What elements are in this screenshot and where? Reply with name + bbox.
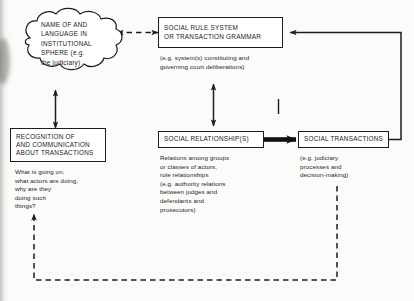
caption-social-transactions: (e.g. judiciary processes and decision-m…: [300, 154, 348, 180]
node-social-relationships[interactable]: SOCIAL RELATIONSHIP(S): [158, 131, 264, 148]
connector-social-transactions-feedback-to-rule-system: [290, 33, 401, 140]
caption-recognition: What is going on, what actors are doing,…: [15, 168, 78, 211]
diagram-figure: rule system --> recognition --> social r…: [0, 0, 414, 301]
node-social-rule-system[interactable]: SOCIAL RULE SYSTEM OR TRANSACTION GRAMMA…: [158, 17, 283, 48]
caption-social-rule-system: (e.g. system(s) constituting and governi…: [160, 54, 249, 71]
node-social-transactions[interactable]: SOCIAL TRANSACTIONS: [298, 131, 389, 148]
caption-social-relationships: Relations among groups or classes of act…: [160, 154, 229, 214]
cloud-label: NAME OF AND LANGUAGE IN INSTITUTIONAL SP…: [41, 20, 92, 67]
node-recognition[interactable]: RECOGNITION OF AND COMMUNICATION ABOUT T…: [10, 128, 106, 162]
